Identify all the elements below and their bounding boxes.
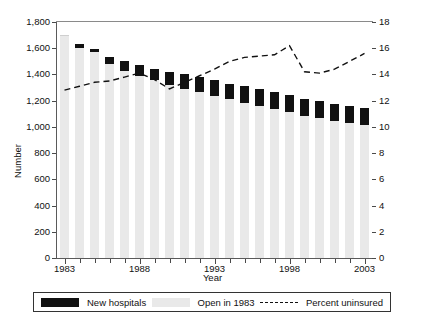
y-tick-left (52, 127, 56, 128)
legend-label-percent-uninsured: Percent uninsured (306, 297, 383, 308)
legend-swatch-dashed-line-icon (260, 302, 298, 303)
legend-item-percent-uninsured: Percent uninsured (260, 297, 383, 308)
y-tick-left (52, 48, 56, 49)
y-tick-label-left: 800 (34, 148, 50, 158)
y-tick-left (52, 232, 56, 233)
y-tick-right (372, 206, 376, 207)
y-tick-label-right: 2 (379, 227, 384, 237)
x-tick (80, 259, 81, 263)
x-tick (260, 259, 261, 263)
percent-uninsured-line (57, 22, 372, 258)
y-tick-left (52, 22, 56, 23)
y-tick-label-right: 18 (379, 17, 390, 27)
x-tick (95, 259, 96, 263)
y-tick-label-right: 16 (379, 43, 390, 53)
y-tick-label-left: 1,800 (26, 17, 50, 27)
x-tick (200, 259, 201, 263)
chart-figure: Number 02004006008001,0001,2001,4001,600… (0, 0, 425, 321)
y-tick-label-right: 8 (379, 148, 384, 158)
y-tick-label-left: 600 (34, 175, 50, 185)
x-tick (230, 259, 231, 263)
y-tick-label-right: 12 (379, 96, 390, 106)
y-tick-label-left: 1,200 (26, 96, 50, 106)
y-tick-right (372, 74, 376, 75)
legend-item-new-hospitals: New hospitals (41, 297, 146, 308)
legend-swatch-grey-icon (152, 298, 190, 307)
y-tick-left (52, 101, 56, 102)
y-tick-label-left: 1,600 (26, 43, 50, 53)
x-tick (350, 259, 351, 263)
x-tick (110, 259, 111, 263)
x-tick (335, 259, 336, 263)
y-tick-label-right: 4 (379, 201, 384, 211)
y-tick-left (52, 179, 56, 180)
x-tick (305, 259, 306, 263)
y-tick-right (372, 232, 376, 233)
chart-legend: New hospitals Open in 1983 Percent unins… (33, 292, 391, 312)
y-tick-label-right: 14 (379, 70, 390, 80)
legend-item-open-in-1983: Open in 1983 (152, 297, 255, 308)
y-tick-right (372, 127, 376, 128)
x-tick (125, 259, 126, 263)
y-tick-right (372, 101, 376, 102)
x-tick (245, 259, 246, 263)
y-tick-left (52, 206, 56, 207)
y-tick-right (372, 22, 376, 23)
x-tick (320, 259, 321, 263)
y-tick-right (372, 179, 376, 180)
y-tick-label-left: 400 (34, 201, 50, 211)
y-tick-right (372, 153, 376, 154)
y-tick-label-right: 10 (379, 122, 390, 132)
y-tick-label-left: 200 (34, 227, 50, 237)
x-tick (155, 259, 156, 263)
x-tick (170, 259, 171, 263)
y-tick-label-left: 1,400 (26, 70, 50, 80)
legend-swatch-black-icon (41, 298, 79, 307)
legend-label-new-hospitals: New hospitals (87, 297, 146, 308)
legend-label-open-in-1983: Open in 1983 (198, 297, 255, 308)
y-tick-right (372, 48, 376, 49)
x-tick (185, 259, 186, 263)
x-tick (275, 259, 276, 263)
plot-area (57, 22, 372, 258)
y-tick-label-right: 6 (379, 175, 384, 185)
y-tick-left (52, 74, 56, 75)
y-tick-left (52, 153, 56, 154)
y-tick-label-left: 1,000 (26, 122, 50, 132)
x-axis-label: Year (0, 272, 425, 283)
